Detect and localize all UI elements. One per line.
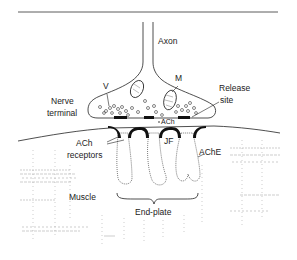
label-release-site-2: site bbox=[220, 95, 233, 105]
label-ach-receptors-1: ACh bbox=[76, 138, 93, 148]
mitochondrion-right bbox=[162, 89, 179, 111]
label-ach-receptors-2: receptors bbox=[67, 150, 102, 160]
label-release-site-1: Release bbox=[219, 83, 250, 93]
label-ache: AChE bbox=[199, 147, 221, 157]
label-axon: Axon bbox=[158, 36, 177, 46]
end-plate-brace bbox=[117, 193, 198, 204]
label-end-plate: End-plate bbox=[135, 207, 171, 217]
diagram-drawing bbox=[0, 0, 297, 260]
synaptic-vesicles bbox=[99, 100, 198, 117]
neuromuscular-junction-diagram: Axon M V Release site Nerve terminal ACh… bbox=[0, 0, 297, 260]
label-nerve-terminal-2: terminal bbox=[47, 108, 77, 118]
label-nerve-terminal-1: Nerve bbox=[51, 96, 74, 106]
label-muscle: Muscle bbox=[69, 192, 96, 202]
active-zones bbox=[114, 116, 190, 119]
label-mitochondrion: M bbox=[175, 73, 182, 83]
nerve-terminal-outline bbox=[88, 22, 216, 118]
label-ach: ACh bbox=[161, 117, 175, 127]
label-vesicle: V bbox=[103, 81, 109, 91]
label-junctional-fold: JF bbox=[164, 136, 173, 146]
junctional-folds bbox=[117, 133, 200, 185]
